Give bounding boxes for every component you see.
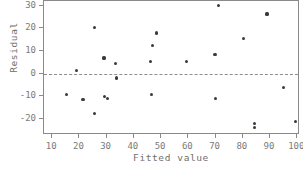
data-point bbox=[213, 53, 216, 56]
x-axis-tick-label: 80 bbox=[227, 141, 257, 151]
x-axis-tick-label: 50 bbox=[145, 141, 175, 151]
y-axis-title: Residual bbox=[8, 8, 19, 88]
x-axis-tick bbox=[187, 134, 188, 138]
data-point bbox=[150, 93, 153, 96]
data-point bbox=[115, 76, 118, 79]
data-point bbox=[265, 12, 268, 15]
data-point bbox=[253, 126, 256, 129]
x-axis-tick-label: 60 bbox=[172, 141, 202, 151]
y-axis-tick bbox=[39, 73, 43, 74]
data-point bbox=[282, 86, 285, 89]
y-axis-tick bbox=[39, 27, 43, 28]
x-axis-tick-label: 40 bbox=[118, 141, 148, 151]
residual-plot-figure: 1020304050607080901003020100-10-20 Fitte… bbox=[0, 0, 303, 170]
x-axis-tick bbox=[78, 134, 79, 138]
y-axis-tick bbox=[39, 95, 43, 96]
x-axis-tick bbox=[242, 134, 243, 138]
y-axis-tick bbox=[39, 5, 43, 6]
data-point bbox=[75, 69, 78, 72]
x-axis-tick bbox=[269, 134, 270, 138]
x-axis-tick-label: 70 bbox=[200, 141, 230, 151]
data-point bbox=[242, 37, 245, 40]
x-axis-tick-label: 10 bbox=[36, 141, 66, 151]
x-axis-tick bbox=[51, 134, 52, 138]
x-axis-tick-label: 90 bbox=[254, 141, 284, 151]
data-point bbox=[155, 31, 158, 34]
data-point bbox=[214, 97, 217, 100]
x-axis-tick-label: 100 bbox=[281, 141, 303, 151]
x-axis-title: Fitted value bbox=[43, 152, 299, 163]
data-point bbox=[185, 60, 188, 63]
data-point bbox=[149, 60, 152, 63]
plot-frame bbox=[43, 0, 299, 134]
data-point bbox=[93, 26, 96, 29]
data-point bbox=[253, 122, 256, 125]
data-point bbox=[217, 4, 220, 7]
data-point bbox=[65, 93, 68, 96]
plot-area bbox=[44, 1, 298, 133]
x-axis-tick bbox=[296, 134, 297, 138]
y-axis-tick bbox=[39, 118, 43, 119]
y-axis-tick-label: -10 bbox=[0, 90, 36, 100]
data-point bbox=[106, 97, 109, 100]
x-axis-tick bbox=[160, 134, 161, 138]
data-point bbox=[114, 62, 117, 65]
zero-residual-line bbox=[44, 74, 298, 75]
data-point bbox=[102, 56, 105, 59]
x-axis-tick bbox=[106, 134, 107, 138]
x-axis-tick-label: 20 bbox=[63, 141, 93, 151]
y-axis-tick bbox=[39, 50, 43, 51]
data-point bbox=[151, 44, 154, 47]
y-axis-tick-label: -20 bbox=[0, 113, 36, 123]
x-axis-tick bbox=[133, 134, 134, 138]
data-point bbox=[294, 120, 297, 123]
x-axis-tick bbox=[215, 134, 216, 138]
data-point bbox=[81, 98, 84, 101]
x-axis-tick-label: 30 bbox=[91, 141, 121, 151]
data-point bbox=[93, 112, 96, 115]
